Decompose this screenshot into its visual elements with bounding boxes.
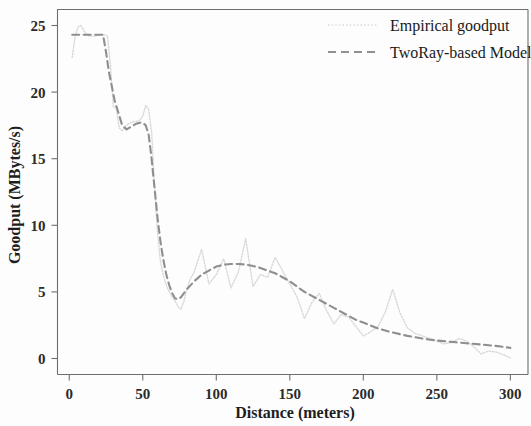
x-tick-label: 300 (499, 386, 522, 402)
legend-label-tworay-based-model: TwoRay-based Model (390, 44, 531, 62)
y-axis-title: Goodput (MBytes/s) (6, 126, 24, 264)
x-tick-label: 50 (135, 386, 150, 402)
x-tick-label: 250 (426, 386, 449, 402)
y-tick-label: 15 (31, 151, 46, 167)
chart-figure: 050100150200250300 0510152025 Distance (… (0, 0, 531, 426)
y-tick-label: 25 (31, 18, 46, 34)
y-tick-label: 0 (38, 351, 46, 367)
y-tick-label: 10 (31, 218, 46, 234)
x-tick-label: 0 (66, 386, 74, 402)
x-tick-label: 200 (352, 386, 375, 402)
legend-label-empirical-goodput: Empirical goodput (390, 17, 510, 35)
y-tick-label: 20 (31, 85, 46, 101)
y-tick-label: 5 (38, 284, 46, 300)
x-tick-label: 100 (205, 386, 228, 402)
x-tick-label: 150 (279, 386, 302, 402)
chart-background (0, 0, 531, 426)
goodput-vs-distance-chart: 050100150200250300 0510152025 Distance (… (0, 0, 531, 426)
x-axis-title: Distance (meters) (235, 404, 355, 422)
